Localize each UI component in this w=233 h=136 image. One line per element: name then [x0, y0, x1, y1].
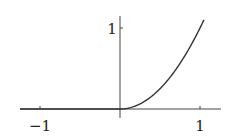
x-tick-label-1: 1 — [195, 117, 205, 135]
y-tick-label-1: 1 — [107, 20, 117, 38]
x-tick-label-neg1: −1 — [29, 117, 51, 135]
chart: −1 1 1 — [0, 0, 233, 136]
